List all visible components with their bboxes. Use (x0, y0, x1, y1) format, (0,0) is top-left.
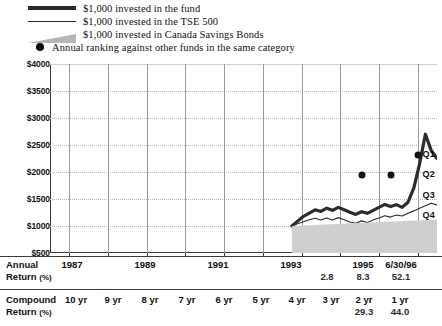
table-cell-value: 52.1 (392, 271, 411, 283)
table-column-header: 2 yr (356, 294, 373, 306)
quartile-label-q1: Q1 (423, 149, 435, 159)
annual-return-row: Annual Return (%) 19871989199119932.8199… (0, 259, 442, 289)
quartile-label-q3: Q3 (423, 190, 435, 200)
table-column-header: 6/30/96 (385, 259, 417, 271)
table-column-header: 1987 (61, 259, 82, 271)
series-overlay (50, 64, 437, 253)
y-axis-label: $1000 (6, 222, 50, 230)
table-column-header: 1989 (134, 259, 155, 271)
black-dot-swatch-icon (36, 43, 44, 51)
fund-performance-chart-panel: $1,000 invested in the fund $1,000 inves… (0, 0, 442, 326)
table-column-header: 8 yr (142, 294, 159, 306)
table-column-header: 9 yr (105, 294, 122, 306)
table-column-header: 1991 (207, 259, 228, 271)
csb-area (292, 220, 437, 253)
compound-return-label-line2: Return (6, 306, 37, 317)
y-axis-label: $1500 (6, 195, 50, 203)
legend-label-ranking: Annual ranking against other funds in th… (52, 41, 295, 54)
compound-return-label-line1: Compound (6, 294, 56, 305)
table-column-header: 10 yr (65, 294, 87, 306)
table-cell-value: 29.3 (355, 306, 374, 318)
gray-wedge-swatch-icon (28, 29, 76, 38)
table-column-header: 1 yr (392, 294, 409, 306)
annual-return-label-line2: Return (6, 271, 37, 282)
legend-item-ranking: Annual ranking against other funds in th… (0, 41, 442, 54)
table-column-header: 6 yr (216, 294, 233, 306)
thin-line-swatch-icon (28, 21, 76, 22)
chart-legend: $1,000 invested in the fund $1,000 inves… (0, 2, 442, 54)
y-axis-label: $3500 (6, 87, 50, 95)
y-axis-label: $4000 (6, 60, 50, 68)
table-column-header: 5 yr (253, 294, 270, 306)
legend-item-fund: $1,000 invested in the fund (0, 2, 442, 15)
compound-return-label: Compound Return (%) (6, 294, 68, 318)
chart-area: $500$1000$1500$2000$2500$3000$3500$4000 … (0, 60, 442, 256)
ranking-dot (387, 172, 394, 179)
annual-return-label: Annual Return (%) (6, 259, 68, 283)
y-axis-label: $2000 (6, 168, 50, 176)
table-column-header: 1993 (280, 259, 301, 271)
compound-return-unit: (%) (39, 308, 51, 317)
y-axis-label: $2500 (6, 141, 50, 149)
table-cell-value: 8.3 (356, 271, 369, 283)
table-column-header: 4 yr (289, 294, 306, 306)
y-axis-tick-labels: $500$1000$1500$2000$2500$3000$3500$4000 (0, 64, 50, 253)
table-column-header: 3 yr (323, 294, 340, 306)
compound-return-row: Compound Return (%) 10 yr9 yr8 yr7 yr6 y… (0, 294, 442, 324)
ranking-dot (358, 172, 365, 179)
thick-line-swatch-icon (28, 6, 76, 10)
quartile-label-q2: Q2 (423, 169, 435, 179)
table-rule-middle (0, 289, 442, 290)
table-column-header: 1995 (352, 259, 373, 271)
legend-label-csb: $1,000 invested in Canada Savings Bonds (83, 28, 264, 41)
ranking-dot (414, 152, 421, 159)
legend-item-tse: $1,000 invested in the TSE 500 (0, 15, 442, 28)
table-rule-top (0, 256, 442, 257)
legend-label-fund: $1,000 invested in the fund (83, 2, 200, 15)
table-column-header: 7 yr (179, 294, 196, 306)
table-cell-value: 2.8 (320, 271, 333, 283)
table-cell-value: 44.0 (391, 306, 410, 318)
quartile-label-q4: Q4 (423, 210, 435, 220)
annual-return-unit: (%) (39, 273, 51, 282)
annual-return-label-line1: Annual (6, 259, 38, 270)
legend-item-csb: $1,000 invested in Canada Savings Bonds (0, 28, 442, 41)
plot-area: Q1Q2Q3Q4 (50, 64, 437, 253)
y-axis-label: $3000 (6, 114, 50, 122)
fund-line (292, 134, 437, 226)
legend-label-tse: $1,000 invested in the TSE 500 (83, 15, 218, 28)
